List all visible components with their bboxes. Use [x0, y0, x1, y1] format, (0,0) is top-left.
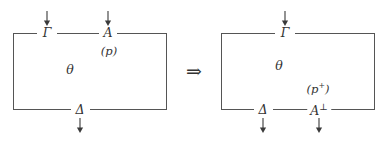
- right-proof-net-box: [221, 33, 375, 110]
- right-net-top-arrow-gamma: [280, 11, 291, 26]
- left-net-top-arrow-a: [103, 11, 114, 26]
- right-net-port-label-a-perp: A⊥: [307, 103, 331, 118]
- left-net-top-arrow-gamma: [42, 11, 53, 26]
- left-net-bottom-arrow-delta: [75, 118, 86, 133]
- right-net-annotation-base: (p: [307, 82, 319, 96]
- perp-icon: ⊥: [319, 102, 327, 112]
- right-net-bottom-arrow-delta: [258, 118, 269, 133]
- left-net-port-label-gamma: Γ: [40, 27, 55, 40]
- right-net-box-label: θ: [275, 60, 283, 73]
- left-net-box-label: θ: [66, 64, 74, 77]
- right-net-port-label-delta: Δ: [255, 104, 270, 117]
- right-net-bottom-arrow-a-perp: [314, 118, 325, 133]
- left-net-port-label-a: A: [100, 27, 115, 40]
- left-proof-net-box: [13, 33, 167, 110]
- right-net-port-label-a-base: A: [310, 103, 319, 118]
- left-net-annotation: (p): [101, 46, 117, 58]
- right-net-port-label-gamma: Γ: [278, 27, 293, 40]
- right-net-annotation-close: ): [325, 82, 330, 96]
- implies-symbol: ⇒: [186, 62, 202, 81]
- proof-net-rewrite-figure: Γ A (p) θ Δ ⇒ Γ θ (p+) Δ A⊥: [0, 0, 388, 147]
- left-net-port-label-delta: Δ: [72, 104, 87, 117]
- right-net-annotation: (p+): [307, 82, 330, 95]
